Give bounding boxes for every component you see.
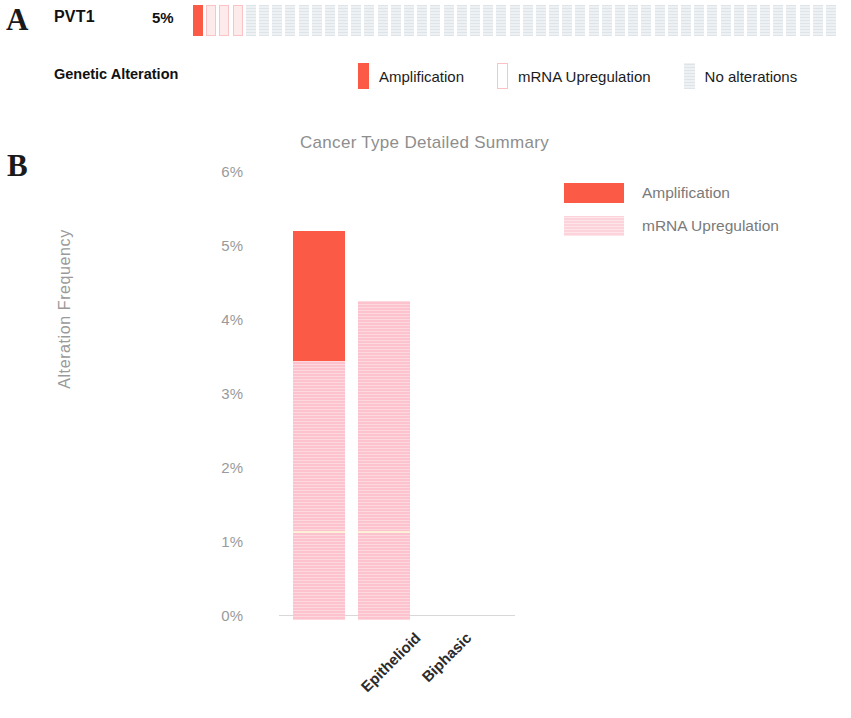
chart-title: Cancer Type Detailed Summary [300,133,549,153]
chart-legend-label: Amplification [642,184,730,202]
oncoprint-cell-none[interactable] [510,5,520,36]
oncoprint-legend-label: mRNA Upregulation [518,68,651,85]
y-axis-title: Alteration Frequency [56,184,74,434]
oncoprint-gene-label: PVT1 [54,8,95,26]
x-axis-label-biphasic: Biphasic [418,629,474,685]
oncoprint-cell-none[interactable] [694,5,704,36]
oncoprint-cell-none[interactable] [378,5,388,36]
amplification-swatch [358,63,369,89]
chart-legend-entry[interactable]: mRNA Upregulation [564,216,779,236]
oncoprint-cell-none[interactable] [285,5,295,36]
oncoprint-cell-none[interactable] [417,5,427,36]
y-axis-tick-label: 4% [221,311,243,328]
no-alterations-swatch [684,63,695,89]
oncoprint-cell-none[interactable] [338,5,348,36]
oncoprint-cell-none[interactable] [773,5,783,36]
oncoprint-legend-label: Amplification [379,68,464,85]
oncoprint-cell-none[interactable] [813,5,823,36]
oncoprint-cell-none[interactable] [747,5,757,36]
scan-artifact-line [293,531,345,533]
chart-legend-label: mRNA Upregulation [642,217,779,235]
oncoprint-cell-amplification[interactable] [193,5,203,36]
oncoprint-cell-none[interactable] [641,5,651,36]
oncoprint-cell-none[interactable] [364,5,374,36]
y-axis-tick-label: 6% [221,163,243,180]
scan-artifact-line [358,531,410,533]
oncoprint-cell-none[interactable] [615,5,625,36]
oncoprint-cell-none[interactable] [707,5,717,36]
oncoprint-cell-none[interactable] [668,5,678,36]
y-axis-tick-label: 5% [221,237,243,254]
oncoprint-cell-none[interactable] [246,5,256,36]
mrna-upregulation-swatch [497,63,508,89]
oncoprint-cell-none[interactable] [628,5,638,36]
oncoprint-cell-none[interactable] [496,5,506,36]
oncoprint-cell-none[interactable] [734,5,744,36]
oncoprint-cell-none[interactable] [444,5,454,36]
bar-segment-mrna-upregulation[interactable] [293,361,345,620]
genetic-alteration-label: Genetic Alteration [54,66,178,82]
oncoprint-cell-none[interactable] [470,5,480,36]
bar-epithelioid[interactable] [293,231,345,620]
y-axis-tick-label: 0% [221,607,243,624]
oncoprint-cell-none[interactable] [721,5,731,36]
oncoprint-cell-none[interactable] [312,5,322,36]
oncoprint-track[interactable] [193,5,849,36]
y-axis-tick-label: 2% [221,459,243,476]
bar-segment-mrna-upregulation[interactable] [358,301,410,620]
oncoprint-cell-none[interactable] [786,5,796,36]
oncoprint-cell-none[interactable] [536,5,546,36]
oncoprint-cell-none[interactable] [259,5,269,36]
x-axis-label-epithelioid: Epithelioid [357,629,423,695]
oncoprint-legend-entry: mRNA Upregulation [497,63,651,89]
panel-a-letter: A [6,2,28,38]
oncoprint-cell-mrna-upregulation[interactable] [206,5,216,36]
oncoprint-cell-none[interactable] [483,5,493,36]
oncoprint-cell-none[interactable] [575,5,585,36]
oncoprint-legend-entry: Amplification [358,63,464,89]
oncoprint-cell-mrna-upregulation[interactable] [233,5,243,36]
oncoprint-cell-none[interactable] [272,5,282,36]
panel-b-letter: B [7,148,28,184]
oncoprint-cell-none[interactable] [826,5,836,36]
oncoprint-legend-entry: No alterations [684,63,798,89]
plot-area: 0%1%2%3%4%5%6%EpithelioidBiphasic [255,160,515,620]
chart-legend-entry[interactable]: Amplification [564,183,779,203]
oncoprint-cell-none[interactable] [602,5,612,36]
oncoprint-cell-none[interactable] [391,5,401,36]
oncoprint-cell-none[interactable] [549,5,559,36]
y-axis-tick-label: 3% [221,385,243,402]
oncoprint-cell-none[interactable] [351,5,361,36]
oncoprint-cell-none[interactable] [430,5,440,36]
bar-biphasic[interactable] [358,301,410,620]
y-axis-tick-label: 1% [221,533,243,550]
oncoprint-cell-none[interactable] [404,5,414,36]
chart-legend-swatch-amplification [564,183,624,203]
oncoprint-cell-mrna-upregulation[interactable] [219,5,229,36]
oncoprint-cell-none[interactable] [299,5,309,36]
oncoprint-legend-label: No alterations [705,68,798,85]
oncoprint-cell-none[interactable] [800,5,810,36]
oncoprint-cell-none[interactable] [562,5,572,36]
oncoprint-cell-none[interactable] [589,5,599,36]
oncoprint-cell-none[interactable] [681,5,691,36]
oncoprint-cell-none[interactable] [325,5,335,36]
oncoprint-cell-none[interactable] [760,5,770,36]
chart-legend: AmplificationmRNA Upregulation [564,183,779,249]
oncoprint-legend: AmplificationmRNA UpregulationNo alterat… [358,63,797,89]
bar-segment-amplification[interactable] [293,231,345,361]
oncoprint-altered-percent: 5% [152,9,174,26]
oncoprint-cell-none[interactable] [457,5,467,36]
oncoprint-cell-none[interactable] [655,5,665,36]
chart-legend-swatch-mrna-upregulation [564,216,624,236]
oncoprint-cell-none[interactable] [523,5,533,36]
